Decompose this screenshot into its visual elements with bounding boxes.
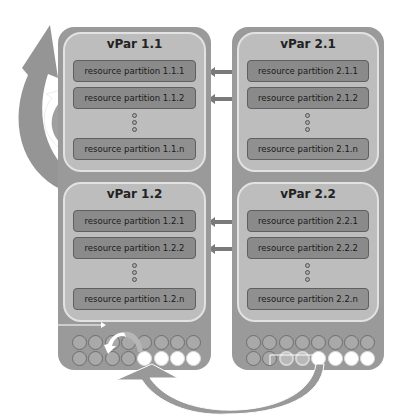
cpu-used (344, 335, 359, 350)
resource-partition-2-2-n[interactable]: resource partition 2.2.n (247, 288, 369, 310)
cpu-used (262, 351, 277, 366)
resource-partition-2-1-n[interactable]: resource partition 2.1.n (247, 138, 369, 160)
cpu-moving (295, 351, 310, 366)
cpu-used (246, 335, 261, 350)
cpu-free (344, 351, 359, 366)
cpu-used (360, 335, 375, 350)
ellipsis-icon (305, 113, 311, 132)
resource-partition-1-1-1[interactable]: resource partition 1.1.1 (73, 60, 196, 82)
resource-partition-1-2-n[interactable]: resource partition 1.2.n (73, 288, 196, 310)
cpu-used (154, 335, 169, 350)
resource-partition-1-1-n[interactable]: resource partition 1.1.n (73, 138, 196, 160)
cpu-used (262, 335, 277, 350)
cpu-used (72, 351, 87, 366)
cpu-free (170, 351, 185, 366)
resource-partition-1-2-1[interactable]: resource partition 1.2.1 (73, 210, 196, 232)
vpar-1-1[interactable]: vPar 1.1 resource partition 1.1.1 resour… (63, 32, 206, 172)
resource-partition-1-1-2[interactable]: resource partition 1.1.2 (73, 87, 196, 109)
resource-partition-1-2-2[interactable]: resource partition 1.2.2 (73, 237, 196, 259)
cpu-pool-host-2 (246, 335, 376, 367)
cpu-moving (279, 351, 294, 366)
cpu-free (186, 351, 201, 366)
resource-partition-2-1-2[interactable]: resource partition 2.1.2 (247, 87, 369, 109)
cpu-used (311, 335, 326, 350)
cpu-used (246, 351, 261, 366)
cpu-used (105, 351, 120, 366)
cpu-pool-host-1 (72, 335, 202, 367)
vpar-title: vPar 2.2 (239, 187, 377, 201)
cpu-used (295, 335, 310, 350)
cpu-used (186, 335, 201, 350)
vpar-title: vPar 1.2 (65, 187, 204, 201)
resource-partition-2-1-1[interactable]: resource partition 2.1.1 (247, 60, 369, 82)
cpu-free (311, 351, 326, 366)
vpar-1-2[interactable]: vPar 1.2 resource partition 1.2.1 resour… (63, 182, 206, 322)
ellipsis-icon (132, 113, 138, 132)
cpu-used (121, 351, 136, 366)
cpu-free (328, 351, 343, 366)
cpu-used (170, 335, 185, 350)
vpar-2-1[interactable]: vPar 2.1 resource partition 2.1.1 resour… (237, 32, 379, 172)
cpu-used (105, 335, 120, 350)
cpu-used (72, 335, 87, 350)
cpu-free (137, 351, 152, 366)
vpar-2-2[interactable]: vPar 2.2 resource partition 2.2.1 resour… (237, 182, 379, 322)
ellipsis-icon (305, 263, 311, 282)
ellipsis-icon (132, 263, 138, 282)
resource-partition-2-2-1[interactable]: resource partition 2.2.1 (247, 210, 369, 232)
cpu-used (121, 335, 136, 350)
cpu-used (88, 351, 103, 366)
vpar-title: vPar 2.1 (239, 37, 377, 51)
cpu-used (88, 335, 103, 350)
cpu-used (279, 335, 294, 350)
vpar-title: vPar 1.1 (65, 37, 204, 51)
resource-partition-2-2-2[interactable]: resource partition 2.2.2 (247, 237, 369, 259)
cpu-free (154, 351, 169, 366)
cpu-used (137, 335, 152, 350)
cpu-used (328, 335, 343, 350)
cpu-free (360, 351, 375, 366)
